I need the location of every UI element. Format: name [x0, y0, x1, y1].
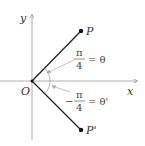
angle-label-theta: π 4 = θ — [74, 47, 106, 71]
angle-arc-theta — [45, 68, 50, 81]
theta-prime-denominator: 4 — [76, 102, 82, 113]
theta-denominator: 4 — [76, 60, 82, 71]
theta-numerator: π — [76, 47, 83, 58]
point-p-prime-label: P' — [85, 124, 96, 137]
reflection-diagram: y x O P P' π 4 = θ − π 4 = θ' — [0, 0, 145, 146]
theta-prime-sign: − — [65, 96, 73, 107]
ray-op-prime — [32, 81, 81, 130]
point-p-prime — [79, 128, 83, 132]
angle-arc-theta-prime — [45, 81, 50, 94]
theta-prime-equals: = θ' — [88, 96, 108, 107]
ray-op — [32, 31, 81, 81]
origin-point — [31, 80, 34, 83]
leader-arrow-theta-prime — [52, 86, 70, 92]
diagram-canvas: y x O P P' π 4 = θ − π 4 = θ' — [0, 0, 145, 146]
angle-label-theta-prime: − π 4 = θ' — [65, 89, 108, 113]
point-p-label: P — [85, 25, 94, 38]
theta-prime-numerator: π — [76, 89, 83, 100]
x-axis-label: x — [127, 85, 134, 98]
y-axis-label: y — [19, 12, 27, 25]
origin-label: O — [21, 85, 30, 98]
theta-equals: = θ — [88, 54, 106, 65]
point-p — [79, 29, 83, 33]
